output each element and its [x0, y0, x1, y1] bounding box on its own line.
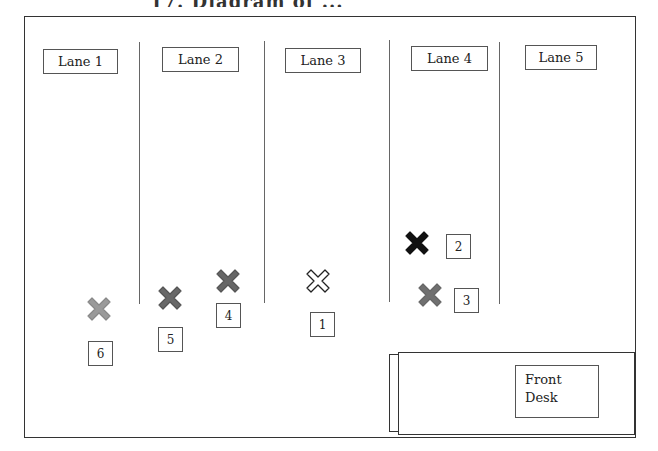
lane-label-4: Lane 4	[411, 46, 488, 71]
x-marker-4-icon	[213, 266, 243, 296]
lane-label-1: Lane 1	[43, 49, 118, 74]
marker-label-4: 4	[216, 303, 241, 328]
front-desk-counter-strip	[389, 354, 399, 432]
lane-label-3: Lane 3	[285, 48, 361, 73]
front-desk-label: Front Desk	[515, 365, 599, 418]
lane-label-2: Lane 2	[162, 47, 239, 72]
x-marker-2-icon	[402, 228, 432, 258]
front-desk-line-2: Desk	[525, 389, 598, 407]
lane-divider-4-5	[499, 42, 500, 304]
front-desk-line-1: Front	[525, 371, 598, 389]
x-marker-6-icon	[84, 294, 114, 324]
lane-divider-1-2	[139, 42, 140, 304]
marker-label-3: 3	[454, 288, 479, 313]
lane-divider-3-4	[389, 40, 390, 302]
marker-label-1: 1	[310, 312, 335, 337]
x-marker-5-icon	[155, 283, 185, 313]
lane-label-5: Lane 5	[525, 45, 597, 70]
x-marker-1-icon	[303, 266, 333, 296]
lane-divider-2-3	[264, 41, 265, 303]
x-marker-3-icon	[415, 280, 445, 310]
marker-label-2: 2	[446, 234, 471, 259]
marker-label-5: 5	[158, 327, 183, 352]
diagram-title: 17. Diagram of ...	[150, 0, 370, 7]
marker-label-6: 6	[88, 341, 113, 366]
